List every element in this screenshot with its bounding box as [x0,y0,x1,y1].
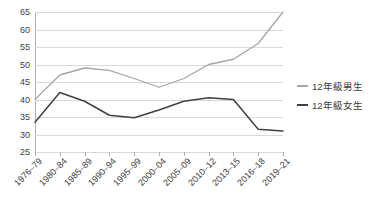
y-axis-tick-label: 45 [0,77,30,87]
series-line-female [35,93,283,132]
line-chart: 656055504540353025 1976–791980–841985–89… [0,0,375,207]
chart-legend: 12年級男生 12年級女生 [297,79,363,112]
y-axis-tick-label: 65 [0,7,30,17]
series-lines [35,12,283,152]
y-axis-tick-label: 55 [0,42,30,52]
y-axis-tick-label: 50 [0,60,30,70]
y-axis-tick-label: 60 [0,25,30,35]
legend-item-male[interactable]: 12年級男生 [297,79,363,93]
y-axis-tick-label: 30 [0,130,30,140]
legend-swatch-male [297,85,308,87]
y-axis-tick-label: 25 [0,147,30,157]
legend-label-male: 12年級男生 [312,79,363,93]
legend-item-female[interactable]: 12年級女生 [297,98,363,112]
y-axis-tick-label: 35 [0,112,30,122]
x-axis-tick [85,152,86,156]
y-axis-tick-label: 40 [0,95,30,105]
plot-area [35,12,283,152]
legend-swatch-female [297,104,308,106]
legend-label-female: 12年級女生 [312,98,363,112]
series-line-male [35,12,283,100]
x-axis-tick [209,152,210,156]
